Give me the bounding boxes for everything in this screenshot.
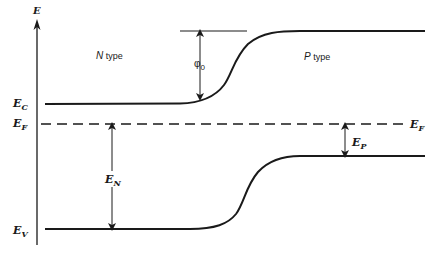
- region-label-p-type: P type: [304, 51, 330, 62]
- energy-axis: E: [32, 5, 41, 245]
- label-ev: EV: [12, 224, 28, 239]
- label-phi0: φ0: [194, 58, 205, 72]
- pn-junction-band-diagram: E N type P type EC EF EV EF φ0 EN EP: [0, 0, 438, 256]
- label-ec: EC: [12, 97, 28, 112]
- valence-band-curve: [45, 156, 425, 229]
- label-ef-right: EF: [409, 118, 425, 133]
- label-ef-left: EF: [12, 117, 28, 132]
- axis-label: E: [32, 5, 41, 16]
- ep-dimension: EP: [345, 126, 367, 154]
- region-label-n-type: N type: [96, 50, 123, 61]
- phi0-dimension: φ0: [180, 31, 247, 97]
- en-dimension: EN: [104, 126, 124, 227]
- label-ep: EP: [351, 136, 367, 151]
- conduction-band-curve: [45, 31, 425, 104]
